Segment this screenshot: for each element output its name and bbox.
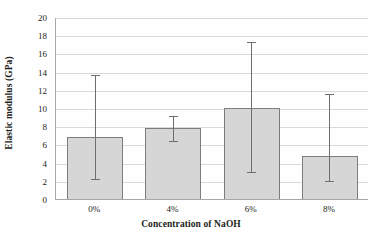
error-bar-cap-lower — [169, 141, 178, 142]
error-bar-cap-upper — [91, 75, 100, 76]
x-axis-line — [56, 199, 368, 200]
bar-group — [145, 18, 201, 200]
x-axis-title: Concentration of NaOH — [0, 219, 382, 229]
x-axis-tick-label: 0% — [55, 203, 133, 215]
y-axis-tick-label: 8 — [43, 123, 48, 132]
y-axis-tick-label: 20 — [38, 14, 47, 23]
error-bar-cap-lower — [91, 179, 100, 180]
error-bar-cap-lower — [325, 181, 334, 182]
y-axis-tick-label: 2 — [43, 177, 48, 186]
y-axis-tick-labels: 02468101214161820 — [18, 12, 51, 206]
y-axis-tick-label: 14 — [38, 68, 47, 77]
error-bar-line — [329, 94, 330, 180]
x-axis-tick-label: 6% — [212, 203, 290, 215]
error-bar-line — [251, 42, 252, 172]
bar-group — [67, 18, 123, 200]
y-axis-tick-label: 6 — [43, 141, 48, 150]
y-axis-tick-label: 18 — [38, 32, 47, 41]
x-axis-tick-labels: 0%4%6%8% — [55, 203, 368, 219]
error-bar-cap-upper — [325, 94, 334, 95]
y-axis-title-text: Elastic modulus (GPa) — [4, 56, 14, 149]
error-bar-cap-upper — [247, 42, 256, 43]
y-axis-tick-label: 4 — [43, 159, 48, 168]
y-axis-tick-label: 10 — [38, 105, 47, 114]
error-bar-line — [95, 75, 96, 178]
y-axis-title: Elastic modulus (GPa) — [0, 0, 18, 205]
error-bar-line — [173, 116, 174, 141]
plot-inner — [56, 18, 368, 200]
bar-chart-figure: Elastic modulus (GPa) 02468101214161820 … — [0, 0, 382, 241]
error-bar-cap-lower — [247, 172, 256, 173]
y-axis-tick-label: 12 — [38, 86, 47, 95]
y-axis-tick-label: 16 — [38, 50, 47, 59]
x-axis-tick-label: 8% — [290, 203, 368, 215]
bar-group — [224, 18, 280, 200]
bar-group — [302, 18, 358, 200]
plot-area — [55, 18, 368, 200]
y-axis-tick-label: 0 — [43, 196, 48, 205]
x-axis-tick-label: 4% — [133, 203, 211, 215]
error-bar-cap-upper — [169, 116, 178, 117]
